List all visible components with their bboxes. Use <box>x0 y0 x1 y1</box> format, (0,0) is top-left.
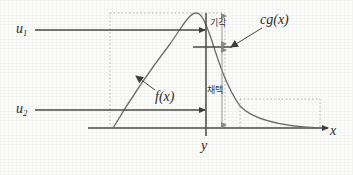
label-cgx: cg(x) <box>260 13 289 27</box>
label-reject-region: 기각 <box>210 19 226 28</box>
cgx-leader-line <box>231 28 262 47</box>
label-accept-region: 채택 <box>207 86 223 95</box>
figure-canvas <box>0 0 353 175</box>
label-y-axis-point: y <box>201 139 207 153</box>
rejection-sampling-figure: u1 u2 f(x) cg(x) y x 기각 채택 <box>0 0 353 175</box>
label-x-axis: x <box>330 124 336 138</box>
label-u1: u1 <box>16 22 27 37</box>
label-u2: u2 <box>16 102 27 117</box>
label-fx: f(x) <box>155 90 174 104</box>
